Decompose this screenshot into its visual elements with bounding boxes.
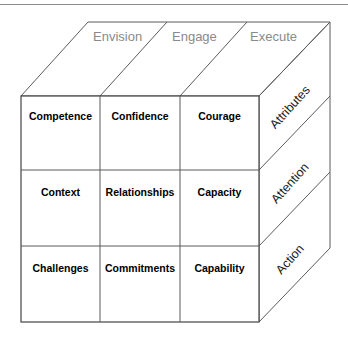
top-label-engage: Engage — [172, 29, 217, 44]
front-face — [21, 96, 259, 322]
side-label-attention: Attention — [268, 160, 311, 206]
top-label-execute: Execute — [250, 29, 297, 44]
cell-relationships: Relationships — [106, 186, 175, 198]
cell-courage: Courage — [198, 110, 241, 122]
cell-capacity: Capacity — [198, 186, 242, 198]
side-label-attributes: Attributes — [267, 83, 313, 132]
cube-svg: Envision Engage Execute Attributes Atten… — [0, 0, 348, 339]
cell-commitments: Commitments — [105, 262, 175, 274]
top-label-envision: Envision — [93, 29, 142, 44]
cell-capability: Capability — [194, 262, 244, 274]
cell-confidence: Confidence — [111, 110, 168, 122]
cell-competence: Competence — [29, 110, 92, 122]
cube-diagram: Envision Engage Execute Attributes Atten… — [0, 0, 348, 339]
cell-challenges: Challenges — [32, 262, 88, 274]
cell-context: Context — [41, 186, 81, 198]
side-label-action: Action — [273, 242, 307, 277]
